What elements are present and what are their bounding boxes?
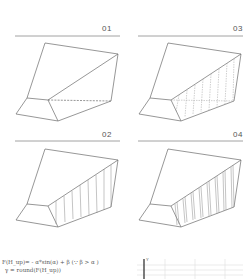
panel-02: 02 bbox=[10, 130, 120, 235]
panel-01: 01 bbox=[10, 24, 120, 129]
formula-line-2: γ = round(F(H_up)) bbox=[2, 266, 99, 274]
wedge-diagram-03 bbox=[133, 24, 243, 124]
wedge-diagram-02 bbox=[10, 130, 122, 230]
mini-grid-chart: Y bbox=[137, 257, 243, 279]
panel-03: 03 bbox=[133, 24, 243, 129]
grid-chart-svg bbox=[137, 257, 243, 279]
formula-block: F(H_up)= - α*sin(α) + β (∵ β > α ) γ = r… bbox=[2, 258, 99, 274]
wedge-diagram-04 bbox=[133, 130, 243, 230]
panel-04: 04 bbox=[133, 130, 243, 235]
wedge-diagram-01 bbox=[10, 24, 122, 124]
formula-line-1: F(H_up)= - α*sin(α) + β (∵ β > α ) bbox=[2, 258, 99, 266]
y-axis-label: Y bbox=[146, 257, 149, 262]
